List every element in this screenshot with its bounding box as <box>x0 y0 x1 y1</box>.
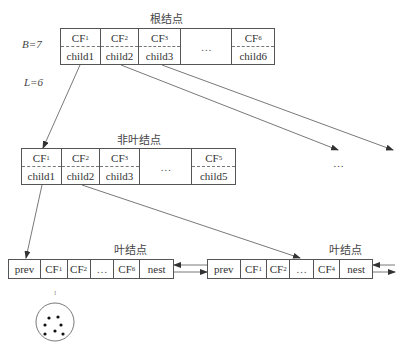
nonleaf-node: CF1 child1 CF2 child2 CF3 child3 … CF5 c… <box>21 148 236 185</box>
cluster-circle <box>36 303 74 341</box>
leaf-node-2: prev CF1 CF2 … CF4 nest <box>207 259 373 279</box>
leaf-capacity-label: L=6 <box>24 76 43 88</box>
nonleaf-ellipsis: … <box>140 149 193 184</box>
root-entry-6: CF6 child6 <box>232 29 274 64</box>
leaf2-prev: prev <box>208 260 240 278</box>
leaf1-next: nest <box>140 260 173 278</box>
root-ellipsis: … <box>181 29 233 64</box>
nonleaf-entry-3: CF3 child3 <box>100 149 140 184</box>
branching-factor-label: B=7 <box>22 38 42 50</box>
leaf-node-2-title: 叶结点 <box>329 241 362 257</box>
nonleaf-entry-5: CF5 child5 <box>192 149 235 184</box>
root-entry-1: CF1 child1 <box>61 29 101 64</box>
nonleaf-entry-2: CF2 child2 <box>62 149 101 184</box>
root-node: CF1 child1 CF2 child2 CF3 child3 … CF6 c… <box>60 28 275 65</box>
cluster-mark: I <box>54 289 56 297</box>
leaf-node-1-title: 叶结点 <box>114 241 147 257</box>
root-node-title: 根结点 <box>150 10 183 26</box>
leaf1-cf2: CF2 <box>68 260 90 278</box>
root-entry-2: CF2 child2 <box>101 29 140 64</box>
leaf1-prev: prev <box>9 260 40 278</box>
leaf2-ellipsis: … <box>290 260 313 278</box>
leaf2-cf2: CF2 <box>267 260 289 278</box>
leaf2-next: nest <box>340 260 372 278</box>
leaf1-ellipsis: … <box>91 260 114 278</box>
nonleaf-node-title: 非叶结点 <box>117 131 161 147</box>
leaf2-cf4: CF4 <box>314 260 340 278</box>
leaf1-cf1: CF1 <box>41 260 67 278</box>
leaf2-cf1: CF1 <box>241 260 267 278</box>
leaf-node-1: prev CF1 CF2 … CF6 nest <box>8 259 174 279</box>
nonleaf-entry-1: CF1 child1 <box>22 149 62 184</box>
leaf1-cf6: CF6 <box>114 260 139 278</box>
more-children-ellipsis: … <box>333 157 344 169</box>
root-entry-3: CF3 child3 <box>139 29 181 64</box>
